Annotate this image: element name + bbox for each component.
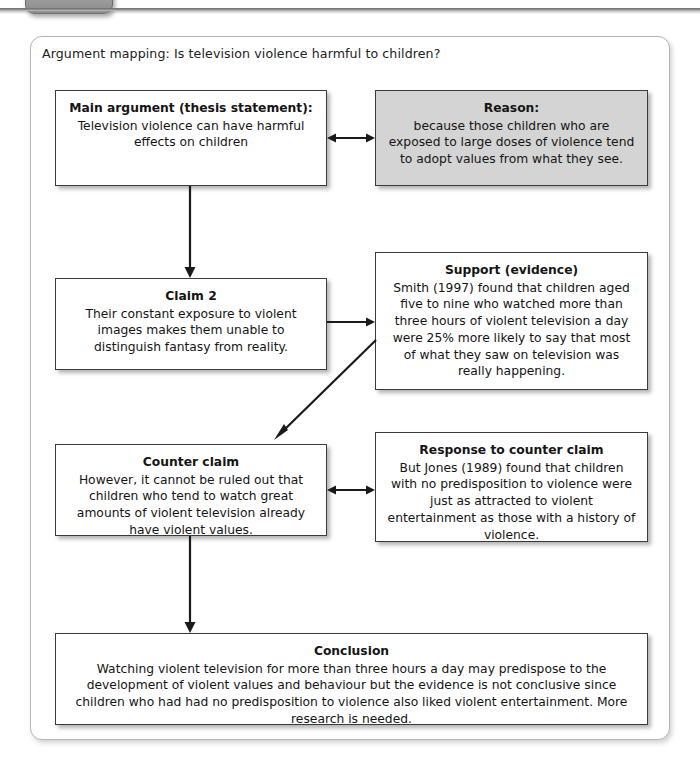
node-claim-2-title: Claim 2: [66, 288, 316, 305]
connector-main-argument-to-reason: [327, 128, 375, 148]
connector-main-argument-to-claim-2: [180, 186, 200, 278]
node-main-argument[interactable]: Main argument (thesis statement): Televi…: [55, 90, 327, 186]
node-support-evidence[interactable]: Support (evidence) Smith (1997) found th…: [375, 252, 648, 390]
node-support-evidence-title: Support (evidence): [386, 262, 637, 279]
node-conclusion-body: Watching violent television for more tha…: [66, 661, 637, 728]
node-conclusion[interactable]: Conclusion Watching violent television f…: [55, 633, 648, 725]
node-reason[interactable]: Reason: because those children who are e…: [375, 90, 648, 186]
node-counter-claim-body: However, it cannot be ruled out that chi…: [66, 472, 316, 539]
node-counter-claim-title: Counter claim: [66, 454, 316, 471]
argument-map-page: Argument mapping: Is television violence…: [0, 0, 700, 771]
node-main-argument-body: Television violence can have harmful eff…: [66, 118, 316, 151]
node-response-to-counter-claim[interactable]: Response to counter claim But Jones (198…: [375, 432, 648, 542]
node-counter-claim[interactable]: Counter claim However, it cannot be rule…: [55, 444, 327, 536]
header-rule-shadow: [0, 11, 700, 14]
node-reason-body: because those children who are exposed t…: [386, 118, 637, 168]
connector-support-to-counter-claim: [268, 340, 380, 444]
node-main-argument-title: Main argument (thesis statement):: [66, 100, 316, 117]
connector-counter-claim-to-conclusion: [180, 536, 200, 633]
node-reason-title: Reason:: [386, 100, 637, 117]
node-support-evidence-body: Smith (1997) found that children aged fi…: [386, 280, 637, 380]
connector-counter-claim-to-response: [327, 480, 375, 500]
connector-claim-2-to-support: [327, 312, 375, 332]
node-response-to-counter-claim-body: But Jones (1989) found that children wit…: [386, 460, 637, 544]
node-response-to-counter-claim-title: Response to counter claim: [386, 442, 637, 459]
page-title: Argument mapping: Is television violence…: [42, 46, 440, 61]
node-conclusion-title: Conclusion: [66, 643, 637, 660]
